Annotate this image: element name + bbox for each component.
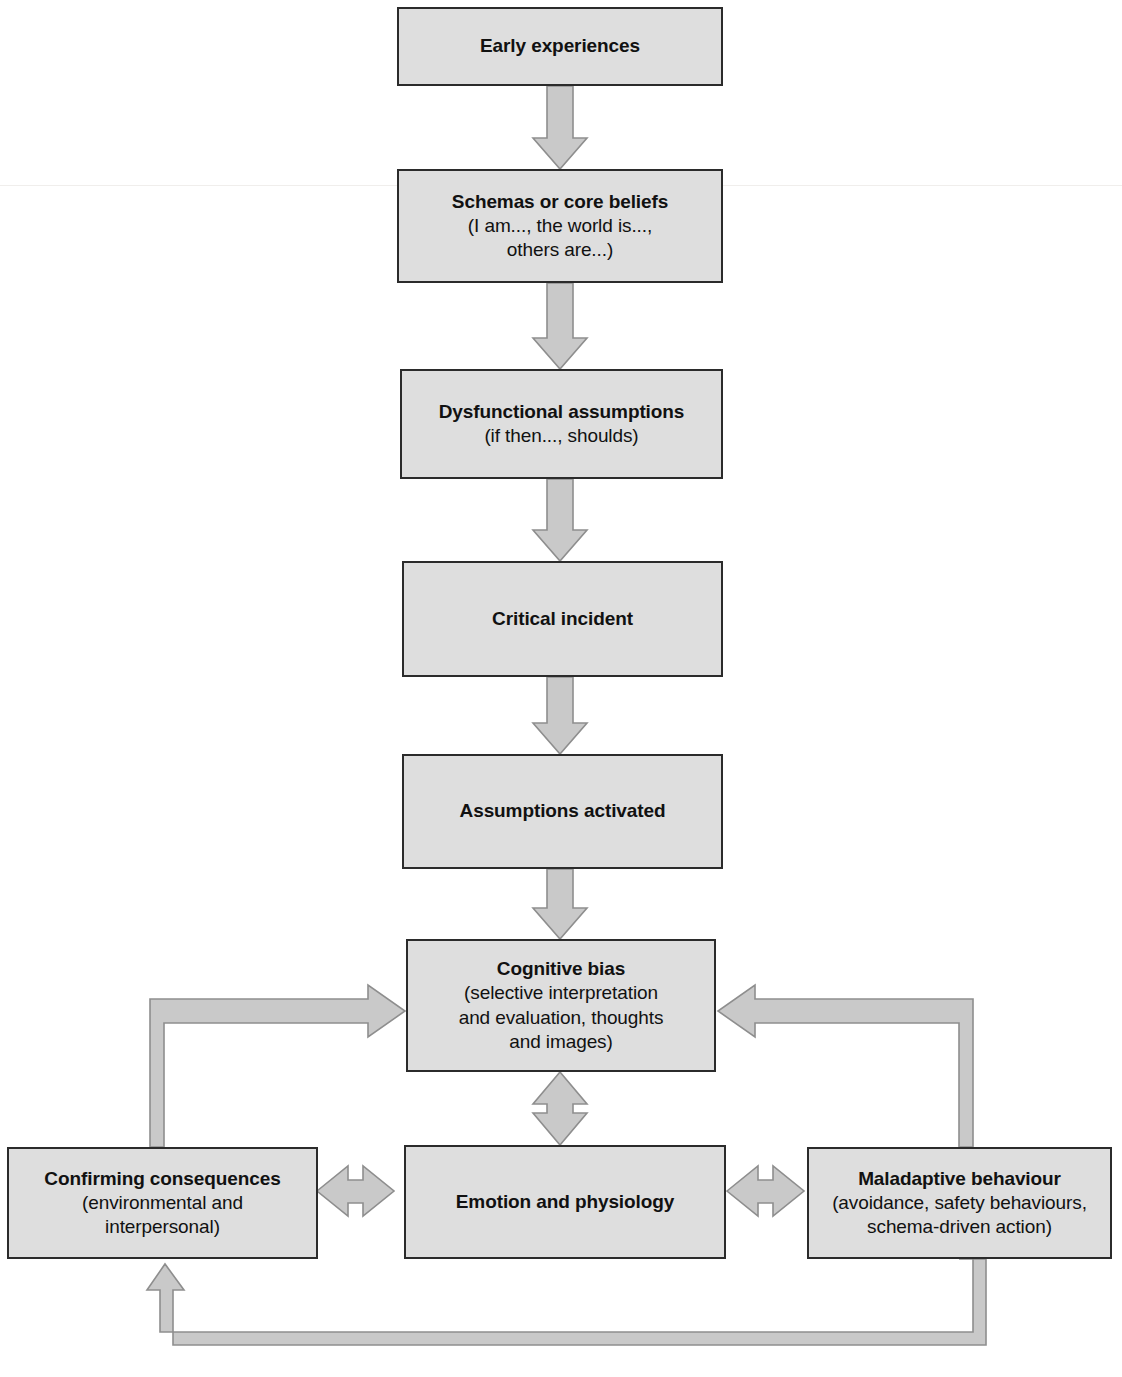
- node-title: Emotion and physiology: [456, 1190, 674, 1214]
- node-dysfunctional-assumptions[interactable]: Dysfunctional assumptions (if then..., s…: [400, 369, 723, 479]
- connector-cognitive-bias-to-emotion: [533, 1072, 587, 1145]
- node-subtitle: (avoidance, safety behaviours,schema-dri…: [832, 1191, 1087, 1240]
- diagram-canvas: Early experiences Schemas or core belief…: [0, 0, 1122, 1377]
- node-title: Critical incident: [492, 607, 633, 631]
- node-critical-incident[interactable]: Critical incident: [402, 561, 723, 677]
- node-maladaptive-behaviour[interactable]: Maladaptive behaviour (avoidance, safety…: [807, 1147, 1112, 1259]
- node-subtitle: (selective interpretationand evaluation,…: [459, 981, 664, 1054]
- node-title: Confirming consequences: [44, 1167, 280, 1191]
- node-subtitle: (I am..., the world is...,others are...): [468, 214, 652, 263]
- node-title: Assumptions activated: [460, 799, 666, 823]
- connector-emotion-to-maladaptive: [727, 1166, 804, 1216]
- node-title: Dysfunctional assumptions: [439, 400, 685, 424]
- connector-maladaptive-to-confirming-loop: [147, 1259, 986, 1345]
- connector-maladaptive-to-cognitive-bias-loop: [718, 985, 973, 1147]
- connector-critical-incident-to-assumptions-activated: [533, 677, 587, 754]
- node-title: Early experiences: [480, 34, 640, 58]
- node-subtitle: (if then..., shoulds): [484, 424, 638, 448]
- connector-early-to-schemas: [533, 86, 587, 169]
- node-title: Schemas or core beliefs: [452, 190, 668, 214]
- node-early-experiences[interactable]: Early experiences: [397, 7, 723, 86]
- node-title: Maladaptive behaviour: [858, 1167, 1061, 1191]
- node-cognitive-bias[interactable]: Cognitive bias (selective interpretation…: [406, 939, 716, 1072]
- connector-confirming-to-emotion: [317, 1166, 394, 1216]
- connector-confirming-to-cognitive-bias-loop: [150, 985, 405, 1147]
- node-title: Cognitive bias: [497, 957, 625, 981]
- connector-assumptions-activated-to-cognitive-bias: [533, 869, 587, 939]
- node-emotion-and-physiology[interactable]: Emotion and physiology: [404, 1145, 726, 1259]
- node-assumptions-activated[interactable]: Assumptions activated: [402, 754, 723, 869]
- node-confirming-consequences[interactable]: Confirming consequences (environmental a…: [7, 1147, 318, 1259]
- connector-assumptions-to-critical-incident: [533, 479, 587, 561]
- connector-schemas-to-assumptions: [533, 283, 587, 369]
- node-subtitle: (environmental andinterpersonal): [82, 1191, 243, 1240]
- node-schemas-or-core-beliefs[interactable]: Schemas or core beliefs (I am..., the wo…: [397, 169, 723, 283]
